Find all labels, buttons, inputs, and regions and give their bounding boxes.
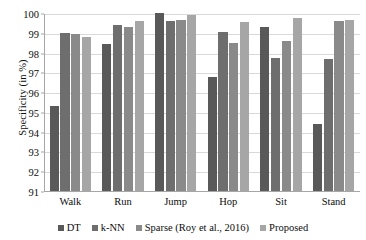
bar [60,33,69,191]
bar [71,34,80,191]
x-tick-label: Jump [149,196,202,207]
chart-figure: Specificity (in %) 919293949596979899100… [0,0,366,240]
y-tick-label: 94 [29,127,40,138]
y-tick-label: 96 [29,88,40,99]
bar [313,124,322,191]
bar [82,37,91,191]
y-tick-label: 100 [23,9,39,20]
chart-legend: DTk-NNSparse (Roy et al., 2016)Proposed [0,222,366,233]
legend-label: k-NN [101,222,125,233]
bar [155,13,164,191]
y-tick-label: 91 [29,187,40,198]
legend-item[interactable]: DT [58,222,81,233]
x-axis-line [44,191,360,192]
legend-item[interactable]: Sparse (Roy et al., 2016) [136,222,249,233]
bar [166,21,175,191]
bar-group: Walk [44,13,97,191]
bar [187,15,196,191]
legend-label: Proposed [269,222,308,233]
bar [218,32,227,191]
bar [102,44,111,191]
bar [176,20,185,191]
legend-label: DT [67,222,81,233]
x-tick-label: Hop [202,196,255,207]
bar-group: Sit [255,13,308,191]
y-tick-label: 99 [29,28,40,39]
x-tick-label: Walk [44,196,97,207]
bar [345,20,354,191]
bar-group: Hop [202,13,255,191]
bar [324,59,333,192]
legend-label: Sparse (Roy et al., 2016) [145,222,249,233]
legend-swatch-icon [58,225,64,231]
plot-inner: 919293949596979899100 WalkRunJumpHopSitS… [44,14,360,192]
x-tick-label: Stand [307,196,360,207]
legend-item[interactable]: Proposed [260,222,308,233]
bar [135,21,144,191]
legend-item[interactable]: k-NN [92,222,125,233]
bar [260,27,269,191]
bar [271,58,280,192]
x-tick-label: Sit [255,196,308,207]
legend-swatch-icon [92,225,98,231]
legend-swatch-icon [260,225,266,231]
y-axis-line [44,14,45,192]
bar [113,25,122,191]
y-tick-label: 92 [29,167,40,178]
bar [293,18,302,191]
bar [50,106,59,191]
bar-group: Stand [307,13,360,191]
legend-swatch-icon [136,225,142,231]
y-tick-label: 97 [29,68,40,79]
plot-area: 919293949596979899100 WalkRunJumpHopSitS… [44,14,360,192]
bar [334,21,343,191]
y-tick-label: 98 [29,48,40,59]
bar [240,22,249,191]
bar [124,27,133,191]
bar [229,43,238,191]
y-tick-label: 95 [29,107,40,118]
bar [208,77,217,191]
x-tick-label: Run [97,196,150,207]
y-axis-title: Specificity (in %) [17,18,28,178]
y-tick-label: 93 [29,147,40,158]
bar [282,41,291,191]
bar-group: Run [97,13,150,191]
bar-group: Jump [149,13,202,191]
